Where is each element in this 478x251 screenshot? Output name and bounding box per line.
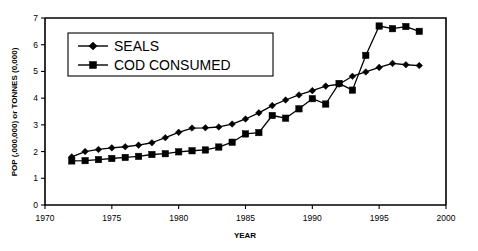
- square-marker: [309, 95, 315, 101]
- square-marker: [95, 156, 101, 162]
- square-marker: [189, 148, 195, 154]
- legend-label-cod-consumed: COD CONSUMED: [114, 57, 231, 73]
- square-marker: [122, 154, 128, 160]
- square-marker: [256, 129, 262, 135]
- square-marker: [162, 151, 168, 157]
- square-marker: [229, 139, 235, 145]
- square-marker: [389, 25, 395, 31]
- x-tick-label: 1975: [102, 213, 121, 223]
- x-tick-label: 1985: [236, 213, 255, 223]
- square-marker: [269, 112, 275, 118]
- square-marker: [109, 155, 115, 161]
- square-marker: [69, 158, 75, 164]
- square-marker: [242, 131, 248, 137]
- x-tick-label: 1990: [303, 213, 322, 223]
- square-marker: [135, 153, 141, 159]
- square-marker: [296, 106, 302, 112]
- square-marker: [82, 157, 88, 163]
- y-axis-title: POP (,000,000) or TONNES (0,000): [10, 47, 19, 176]
- square-marker: [363, 52, 369, 58]
- line-chart: 01234567 1970197519801985199019952000 YE…: [0, 0, 478, 251]
- square-marker: [403, 23, 409, 29]
- square-marker: [175, 149, 181, 155]
- y-tick-label: 7: [33, 13, 38, 23]
- square-marker: [90, 62, 97, 69]
- y-tick-label: 6: [33, 40, 38, 50]
- x-axis-title: YEAR: [234, 231, 256, 240]
- x-tick-label: 1980: [169, 213, 188, 223]
- chart-figure: 01234567 1970197519801985199019952000 YE…: [0, 0, 478, 251]
- legend-label-seals: SEALS: [114, 38, 159, 54]
- y-tick-label: 4: [33, 93, 38, 103]
- square-marker: [349, 87, 355, 93]
- square-marker: [376, 23, 382, 29]
- legend: SEALS COD CONSUMED: [68, 33, 273, 76]
- square-marker: [216, 144, 222, 150]
- y-tick-label: 1: [33, 173, 38, 183]
- square-marker: [323, 101, 329, 107]
- square-marker: [282, 115, 288, 121]
- y-tick-label: 5: [33, 66, 38, 76]
- x-tick-label: 2000: [437, 213, 456, 223]
- y-tick-label: 2: [33, 147, 38, 157]
- y-tick-label: 3: [33, 120, 38, 130]
- square-marker: [202, 147, 208, 153]
- x-tick-label: 1995: [370, 213, 389, 223]
- square-marker: [149, 151, 155, 157]
- y-tick-label: 0: [33, 200, 38, 210]
- square-marker: [336, 80, 342, 86]
- square-marker: [416, 28, 422, 34]
- x-tick-label: 1970: [36, 213, 55, 223]
